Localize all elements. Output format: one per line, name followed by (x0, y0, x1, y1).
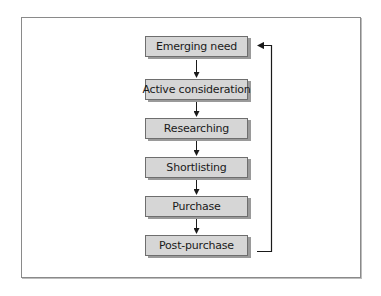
connector-lines (0, 0, 381, 296)
feedback-loop-arrow-icon (257, 46, 272, 252)
